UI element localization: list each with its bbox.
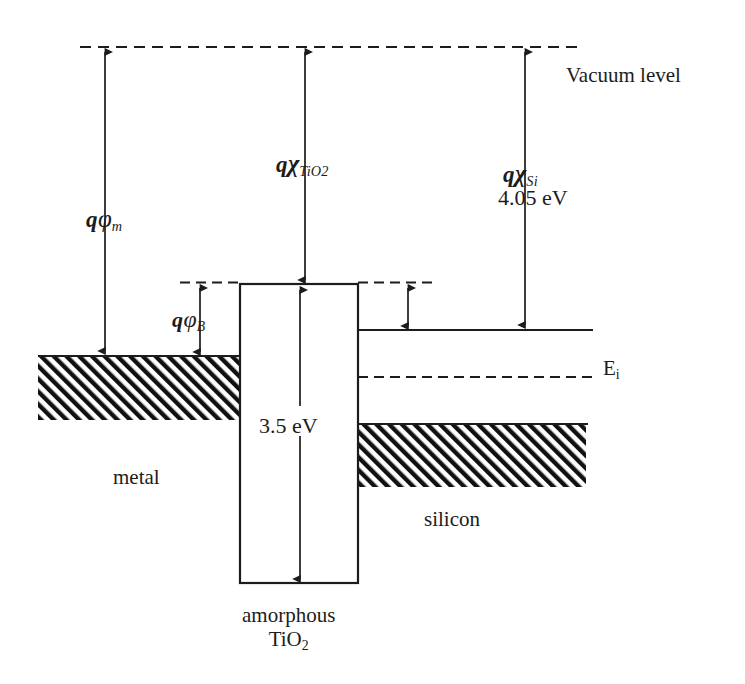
q-phi-m-subscript: m xyxy=(112,218,123,234)
q-chi-tio2-label: qχTiO2 xyxy=(276,150,329,180)
q-chi-tio2-q: q xyxy=(276,152,288,177)
tio2-region-label-line2: TiO2 xyxy=(242,628,335,654)
q-chi-si-symbol: χ xyxy=(515,160,526,187)
silicon-affinity-value-label: 4.05 eV xyxy=(498,186,568,211)
tio2-region-label-line1: amorphous xyxy=(242,604,335,628)
silicon-region-label: silicon xyxy=(424,508,480,532)
tio2-region-label: amorphous TiO2 xyxy=(242,604,335,653)
q-phi-m-q: q xyxy=(86,207,98,232)
intrinsic-level-label: Ei xyxy=(603,357,620,383)
metal-region-label: metal xyxy=(113,466,160,490)
q-phi-m-symbol: φ xyxy=(98,205,112,232)
energy-band-diagram: Vacuum level qχTiO2 qχSi 4.05 eV qφm qφB… xyxy=(0,0,745,684)
tio2-bandgap-value-label: 3.5 eV xyxy=(259,414,318,439)
q-phi-m-label: qφm xyxy=(86,205,122,235)
intrinsic-level-symbol: E xyxy=(603,356,616,380)
tio2-formula-subscript: 2 xyxy=(302,638,309,653)
tio2-formula-text: TiO xyxy=(269,627,302,651)
q-chi-si-q: q xyxy=(503,162,515,187)
q-phi-b-symbol: φ xyxy=(184,306,197,332)
band-diagram-canvas xyxy=(0,0,745,684)
q-chi-tio2-symbol: χ xyxy=(288,150,299,177)
q-phi-b-label: qφB xyxy=(172,306,205,334)
silicon-valence-band-hatch xyxy=(358,425,586,487)
intrinsic-level-subscript: i xyxy=(616,367,620,382)
q-phi-b-q: q xyxy=(172,307,184,332)
q-chi-tio2-subscript: TiO2 xyxy=(299,163,328,179)
metal-filled-states-hatch xyxy=(38,357,241,420)
measurement-arrows xyxy=(105,52,525,579)
vacuum-level-label: Vacuum level xyxy=(566,64,681,88)
q-phi-b-subscript: B xyxy=(197,319,206,334)
